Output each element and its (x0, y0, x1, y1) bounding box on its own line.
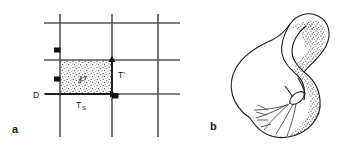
region-p-label: ℘ (78, 71, 87, 84)
tube-wall-left (285, 86, 293, 97)
panel-a: ℘ D T S T' a (0, 0, 180, 151)
label-d: D (33, 90, 39, 100)
panel-b-canvas (180, 0, 347, 151)
panel-b: b (180, 0, 347, 151)
region-p-fill (60, 60, 112, 94)
corner-marker-lower-right (112, 93, 119, 99)
interior-fan-lines (254, 103, 296, 136)
tube-mouth-ellipse (287, 89, 306, 107)
panel-a-canvas: ℘ D T S T' (0, 0, 180, 151)
label-ts: T (76, 100, 81, 110)
panel-label-b: b (210, 121, 217, 132)
label-t-prime: T' (118, 70, 125, 80)
corner-marker-left (54, 77, 61, 82)
label-ts-subscript: S (82, 105, 86, 111)
panel-label-a: a (12, 124, 18, 135)
figure-container: ℘ D T S T' a (0, 0, 347, 151)
corner-marker-upper (54, 48, 61, 53)
